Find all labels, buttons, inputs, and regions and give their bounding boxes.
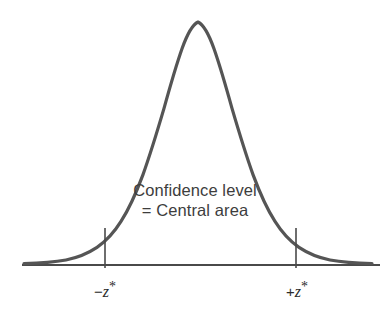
normal-curve-figure: Confidence level = Central area −z* +z*	[0, 0, 390, 322]
axis-label-pos-zstar: +z*	[262, 283, 332, 301]
pos-sign: +	[286, 283, 295, 300]
normal-density-curve	[24, 22, 372, 264]
distribution-curve-svg	[0, 0, 390, 322]
confidence-level-annotation: Confidence level = Central area	[0, 180, 390, 220]
neg-zstar-asterisk: *	[109, 279, 116, 294]
axis-label-neg-zstar: −z*	[70, 283, 140, 301]
neg-sign: −	[94, 283, 103, 300]
annotation-line-central-area: = Central area	[0, 200, 390, 220]
annotation-line-confidence-level: Confidence level	[0, 180, 390, 200]
pos-zstar-asterisk: *	[301, 279, 308, 294]
